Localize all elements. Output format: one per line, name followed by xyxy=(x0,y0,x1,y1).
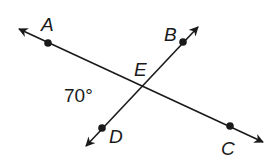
point-d xyxy=(98,124,106,132)
diagram: A B E 70° D C xyxy=(0,0,275,165)
label-c: C xyxy=(221,138,235,159)
label-d: D xyxy=(109,126,123,147)
label-b: B xyxy=(164,24,177,45)
point-b xyxy=(179,38,187,46)
angle-label: 70° xyxy=(64,85,93,106)
label-a: A xyxy=(40,14,54,35)
point-c xyxy=(226,122,234,130)
label-e: E xyxy=(134,59,147,80)
point-a xyxy=(44,39,52,47)
